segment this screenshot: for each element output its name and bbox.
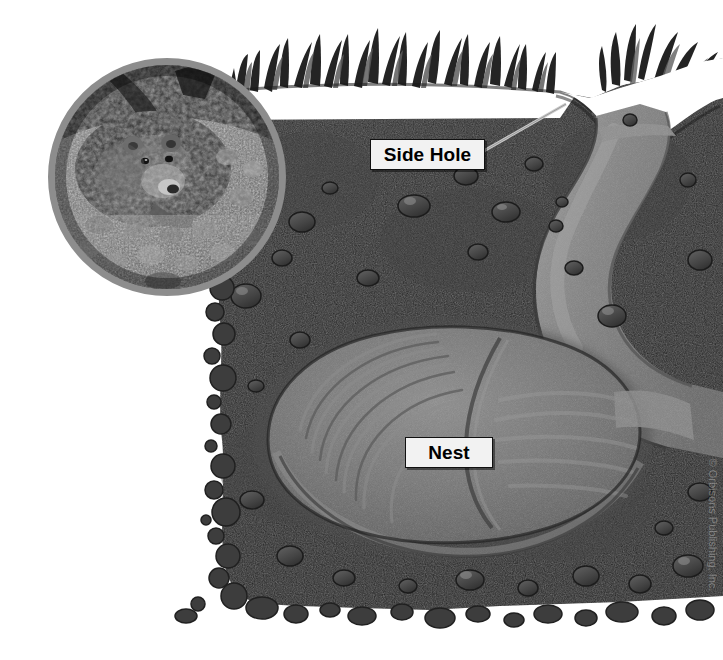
bear-in-burrow-photo <box>48 58 286 296</box>
callout-label-side-hole: Side Hole <box>370 139 485 170</box>
callout-label-nest: Nest <box>405 437 493 468</box>
copyright-watermark: © Orbisons Publishing, Inc. <box>705 450 721 600</box>
diagram-stage: Side Hole Nest © Orbisons Publishing, In… <box>0 0 723 660</box>
copyright-watermark-text: © Orbisons Publishing, Inc. <box>707 459 719 592</box>
callout-label-nest-text: Nest <box>428 443 470 462</box>
callout-label-side-hole-text: Side Hole <box>384 145 471 164</box>
